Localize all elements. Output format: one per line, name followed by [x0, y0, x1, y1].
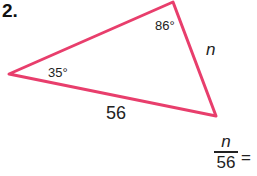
equals-sign: = — [241, 148, 251, 168]
side-right-label: n — [206, 40, 215, 60]
fraction-numerator: n — [214, 133, 238, 150]
side-bottom-label: 56 — [106, 103, 126, 124]
fraction-denominator: 56 — [214, 154, 238, 171]
ratio-fraction: n 56 — [214, 133, 238, 171]
angle-left-label: 35° — [48, 65, 68, 80]
angle-top-label: 86° — [155, 18, 175, 33]
